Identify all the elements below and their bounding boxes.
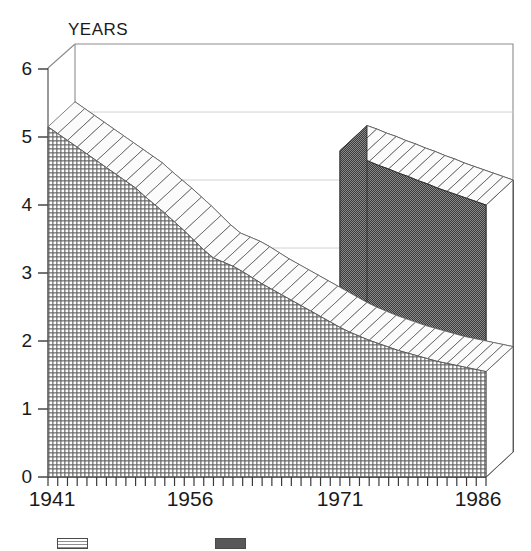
area-chart: YEARS: [0, 0, 531, 551]
x-tick-marks: [48, 477, 486, 486]
y-tick-label: 4: [6, 195, 32, 214]
y-tick-label: 5: [6, 127, 32, 146]
x-tick-label: 1941: [29, 488, 76, 509]
legend-swatch: [57, 538, 88, 549]
x-tick-label: 1986: [455, 488, 502, 509]
depth-edge-top: [48, 44, 75, 68]
y-tick-label: 1: [6, 399, 32, 418]
y-tick-label: 0: [6, 467, 32, 486]
x-tick-label: 1971: [317, 488, 364, 509]
legend-swatch: [215, 538, 246, 549]
y-tick-label: 3: [6, 263, 32, 282]
chart-legend: [0, 538, 531, 551]
y-tick-label: 6: [6, 59, 32, 78]
plot-area: [0, 0, 531, 551]
x-tick-label: 1956: [167, 488, 214, 509]
y-tick-marks: [38, 69, 48, 477]
chart-page: YEARS: [0, 0, 531, 551]
y-tick-label: 2: [6, 331, 32, 350]
